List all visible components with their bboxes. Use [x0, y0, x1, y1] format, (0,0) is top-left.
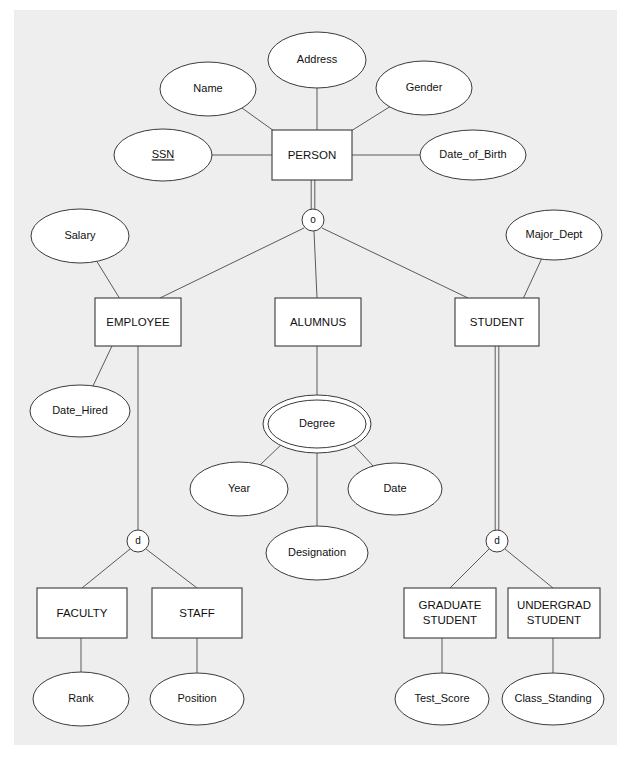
entity-label: ALUMNUS: [290, 316, 347, 328]
entity-staff[interactable]: STAFF: [152, 588, 242, 638]
attribute-class_standing[interactable]: Class_Standing: [502, 673, 604, 725]
entity-label-line2: STUDENT: [423, 614, 477, 626]
entity-label: PERSON: [288, 149, 337, 161]
attribute-label: Date_of_Birth: [439, 148, 506, 160]
edge-e-person-spec: [311, 180, 315, 209]
specialization-symbol: o: [310, 214, 316, 225]
attribute-position[interactable]: Position: [150, 673, 244, 725]
attribute-year[interactable]: Year: [190, 462, 288, 516]
attribute-label: Designation: [288, 546, 346, 558]
edge-e-stuspec-ugrad: [505, 549, 553, 588]
attribute-label: Address: [297, 53, 338, 65]
edge-e-gender-person: [351, 106, 391, 131]
edge-e-spec-employee: [160, 228, 304, 298]
edge-e-student-spec: [495, 346, 499, 530]
entity-label: STUDENT: [470, 316, 524, 328]
attribute-major_dept[interactable]: Major_Dept: [506, 210, 602, 260]
attribute-gender[interactable]: Gender: [376, 61, 472, 115]
specialization-person-spec[interactable]: o: [302, 209, 324, 231]
attribute-date_hired[interactable]: Date_Hired: [30, 385, 130, 437]
edge-e-spec-alumnus: [314, 231, 317, 298]
attribute-label: Class_Standing: [514, 692, 591, 704]
attribute-designation[interactable]: Designation: [266, 526, 368, 580]
entity-alumnus[interactable]: ALUMNUS: [275, 298, 361, 346]
entity-label: FACULTY: [57, 607, 108, 619]
edge-e-majordept-stud: [523, 258, 542, 299]
edge-e-salary-employee: [96, 260, 120, 299]
entity-faculty[interactable]: FACULTY: [37, 588, 127, 638]
attribute-date_of_birth[interactable]: Date_of_Birth: [420, 130, 526, 180]
edge-e-employee-dhired: [92, 346, 112, 388]
attribute-label: Position: [177, 692, 216, 704]
edge-e-spec-student: [322, 228, 468, 298]
attribute-label: Test_Score: [414, 692, 469, 704]
attribute-label: Rank: [68, 692, 94, 704]
er-diagram-page: AddressNameGenderSSNDate_of_BirthSalaryM…: [0, 0, 631, 757]
attribute-salary[interactable]: Salary: [31, 209, 129, 263]
specialization-employee-spec[interactable]: d: [127, 530, 149, 552]
attribute-label: Degree: [299, 417, 335, 429]
specialization-student-spec[interactable]: d: [486, 530, 508, 552]
attribute-rank[interactable]: Rank: [33, 672, 129, 726]
entity-student[interactable]: STUDENT: [455, 298, 539, 346]
attribute-date[interactable]: Date: [348, 463, 442, 515]
edge-e-empspec-staff: [146, 549, 197, 588]
entity-grad[interactable]: GRADUATESTUDENT: [404, 588, 496, 638]
attribute-test_score[interactable]: Test_Score: [395, 673, 489, 725]
entity-label: EMPLOYEE: [106, 316, 170, 328]
attribute-label: SSN: [152, 148, 175, 160]
attribute-label: Gender: [406, 81, 443, 93]
attribute-label: Salary: [64, 229, 96, 241]
er-diagram-svg: AddressNameGenderSSNDate_of_BirthSalaryM…: [0, 0, 631, 757]
attribute-label: Year: [228, 482, 251, 494]
attribute-label: Name: [193, 82, 222, 94]
attribute-label: Date: [383, 482, 406, 494]
entity-label-line1: GRADUATE: [418, 599, 481, 611]
entity-employee[interactable]: EMPLOYEE: [95, 298, 181, 346]
attribute-ssn[interactable]: SSN: [114, 129, 212, 181]
entity-undergrad[interactable]: UNDERGRADSTUDENT: [508, 588, 600, 638]
attribute-label: Date_Hired: [52, 404, 108, 416]
attribute-label: Major_Dept: [526, 228, 583, 240]
specialization-symbol: d: [135, 535, 141, 546]
entity-label-line1: UNDERGRAD: [517, 599, 591, 611]
attribute-degree[interactable]: Degree: [263, 395, 371, 453]
edge-e-stuspec-grad: [450, 549, 489, 588]
attribute-address[interactable]: Address: [268, 32, 366, 88]
entity-label-line2: STUDENT: [527, 614, 581, 626]
entity-person[interactable]: PERSON: [272, 130, 352, 180]
entity-label: STAFF: [179, 607, 215, 619]
edge-e-name-person: [242, 108, 274, 131]
attribute-name[interactable]: Name: [160, 62, 256, 116]
specialization-symbol: d: [494, 535, 500, 546]
edge-e-empspec-faculty: [82, 549, 130, 588]
